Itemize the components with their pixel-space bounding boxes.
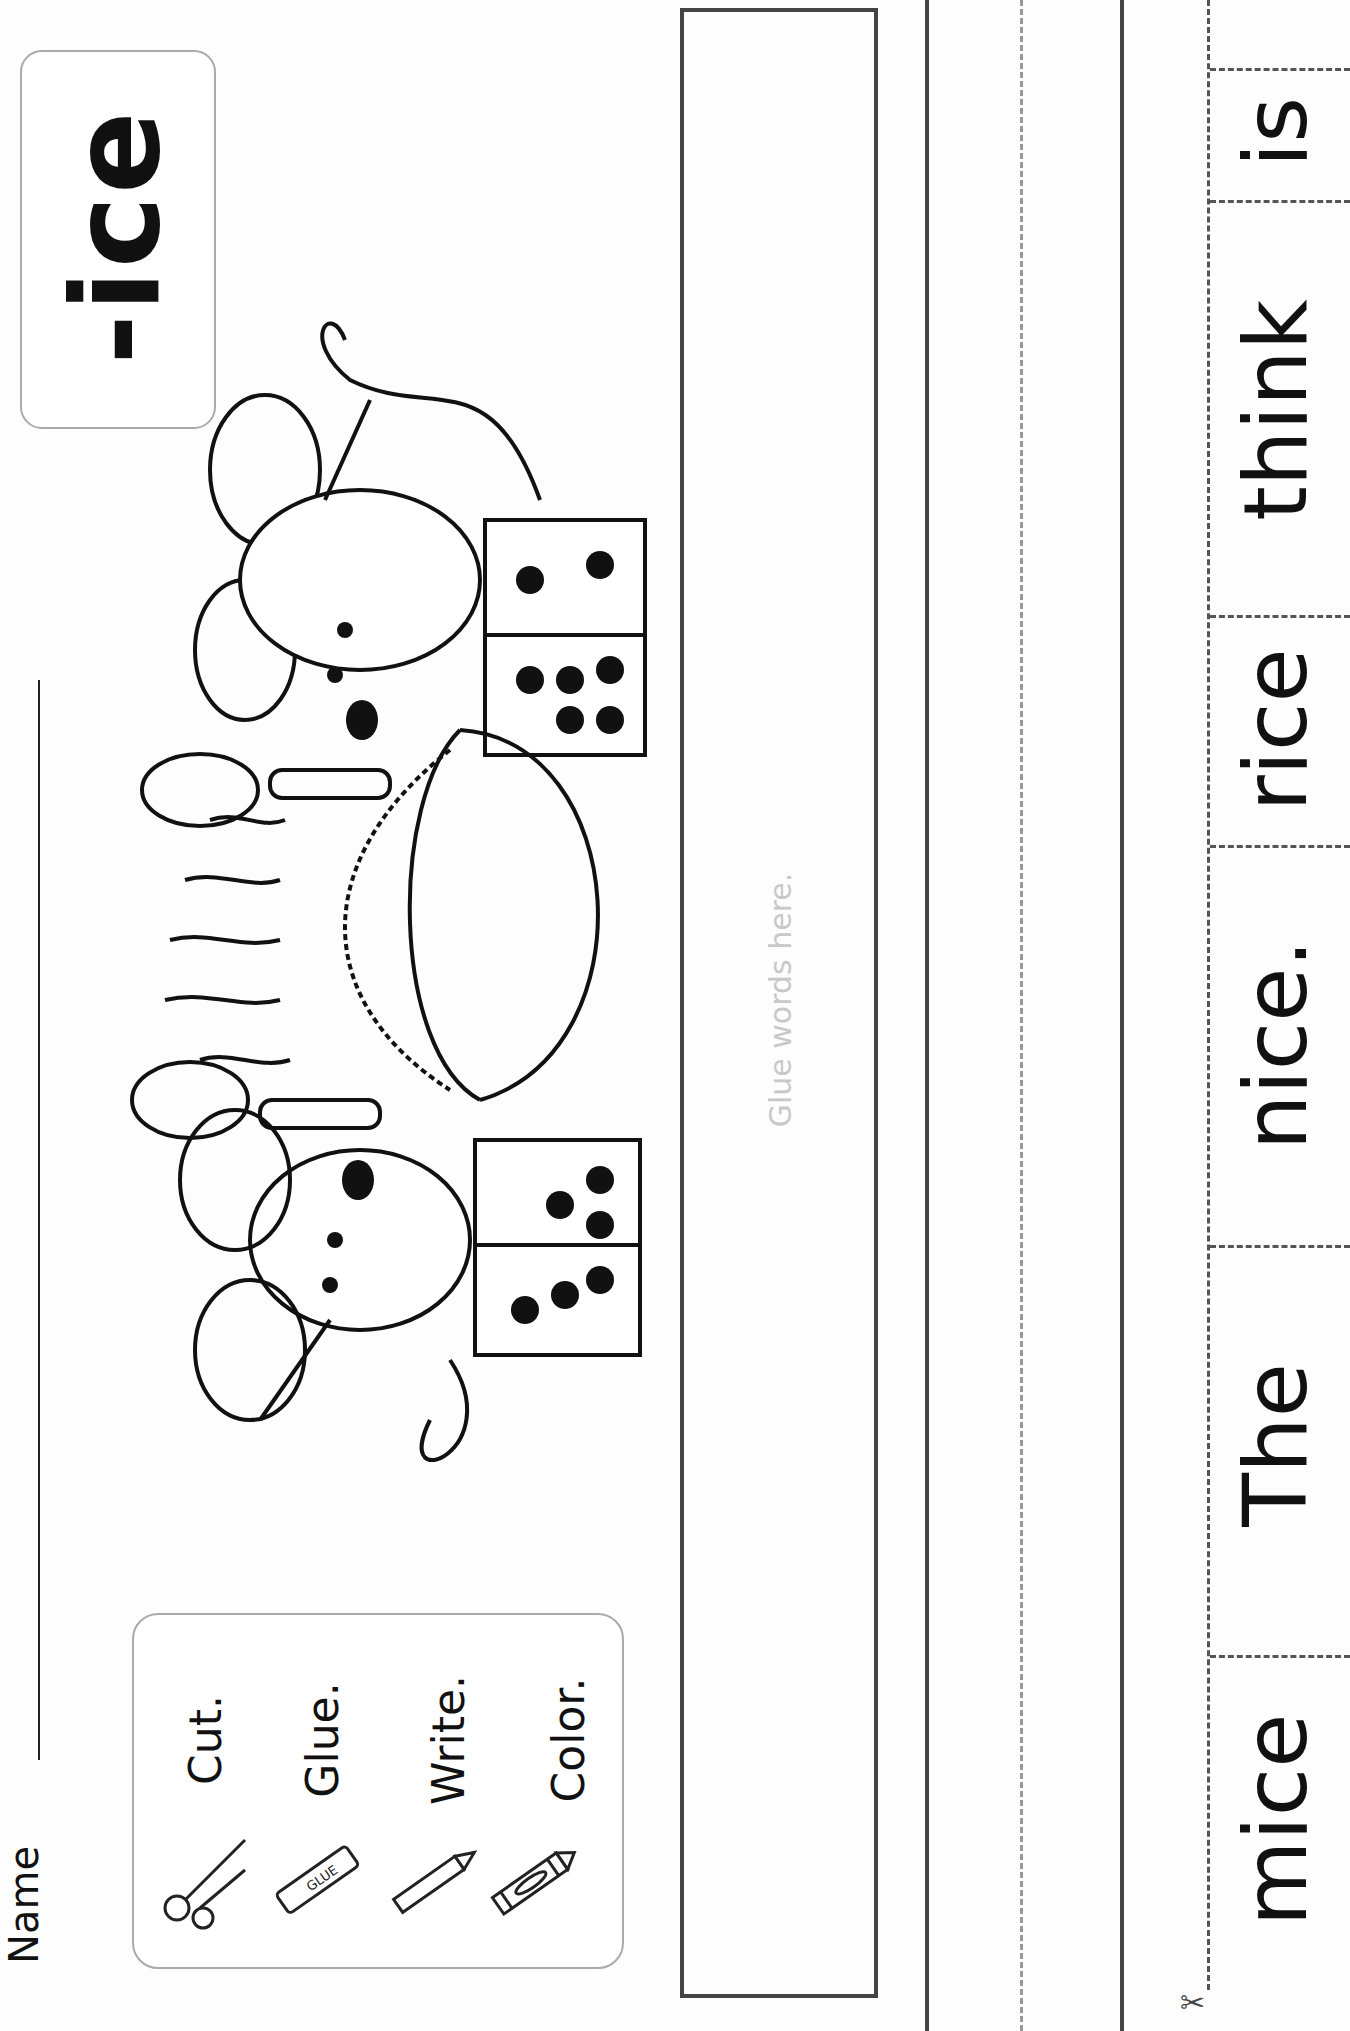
glue-hint-text: Glue words here. bbox=[763, 873, 798, 1128]
writing-line-baseline[interactable] bbox=[1120, 0, 1124, 2031]
instruction-write: Write. bbox=[423, 1675, 474, 1805]
scissors-icon bbox=[155, 1830, 250, 1930]
name-input-line[interactable] bbox=[38, 680, 40, 1760]
word-card-label: mice bbox=[1224, 1714, 1327, 1927]
scissors-icon: ✂ bbox=[1180, 1985, 1205, 2020]
word-card-label: think bbox=[1224, 299, 1327, 520]
word-card-label: rice bbox=[1224, 648, 1327, 811]
crayon-icon bbox=[485, 1840, 585, 1920]
word-card-label: nice. bbox=[1224, 940, 1327, 1151]
word-strip-blank bbox=[1210, 0, 1350, 68]
pencil-icon bbox=[385, 1840, 485, 1920]
instruction-glue: Glue. bbox=[297, 1682, 348, 1797]
word-card-label: The bbox=[1224, 1363, 1327, 1527]
instruction-color: Color. bbox=[543, 1678, 594, 1803]
instruction-cut: Cut. bbox=[180, 1695, 231, 1785]
glue-stick-icon: GLUE bbox=[270, 1840, 365, 1920]
mice-rice-illustration bbox=[130, 300, 670, 1490]
writing-line-midline bbox=[1020, 0, 1023, 2031]
name-label: Name bbox=[1, 1846, 47, 1964]
word-card-label: is bbox=[1224, 97, 1327, 167]
writing-line-top bbox=[925, 0, 929, 2031]
